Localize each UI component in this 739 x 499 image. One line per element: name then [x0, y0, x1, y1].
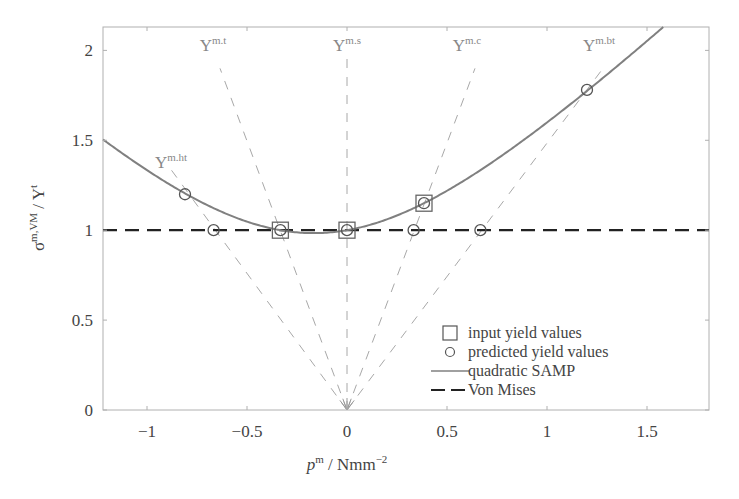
legend-label: predicted yield values: [468, 343, 608, 361]
ray-labels: Ym.htYm.tYm.sYm.cYm.bt: [155, 34, 615, 172]
ray-label: Ym.bt: [583, 34, 615, 55]
quadratic-samp-curve: [103, 27, 663, 233]
y-tick-label: 1.5: [72, 131, 93, 150]
x-tick-label: −0.5: [232, 422, 263, 441]
x-tick-label: 0.5: [436, 422, 457, 441]
legend-label: input yield values: [468, 324, 582, 342]
y-tick-label: 2: [85, 41, 94, 60]
y-axis-title: σm,VM / Yt: [27, 185, 48, 251]
ray-label: Ym.ht: [155, 151, 187, 172]
samp-curve-path: [103, 27, 663, 233]
data-markers: [180, 84, 593, 238]
x-tick-label: 0: [343, 422, 352, 441]
x-axis-title: pm / Nmm−2: [306, 453, 388, 474]
y-tick-label: 0: [85, 401, 94, 420]
legend-circle-icon: [446, 348, 455, 357]
x-axis: −1−0.500.511.5: [138, 27, 658, 441]
x-tick-label: 1.5: [636, 422, 657, 441]
ray-line: [347, 68, 475, 410]
x-tick-label: −1: [138, 422, 156, 441]
ray-label: Ym.c: [453, 34, 482, 55]
y-tick-label: 0.5: [72, 311, 93, 330]
ray-line: [220, 68, 347, 410]
x-tick-label: 1: [543, 422, 552, 441]
ray-line: [168, 165, 347, 410]
ray-arrow: [347, 399, 351, 410]
ray-arrow: [347, 400, 354, 410]
ray-label: Ym.t: [200, 34, 227, 55]
plot-frame: [103, 27, 709, 410]
legend: input yield valuespredicted yield values…: [431, 324, 608, 398]
yield-surface-chart: Ym.htYm.tYm.sYm.cYm.bt −1−0.500.511.5 00…: [0, 0, 739, 499]
legend-label: quadratic SAMP: [468, 362, 575, 380]
ray-label: Ym.s: [333, 34, 361, 55]
y-tick-label: 1: [85, 221, 94, 240]
legend-label: Von Mises: [468, 381, 536, 398]
legend-square-icon: [443, 326, 457, 340]
